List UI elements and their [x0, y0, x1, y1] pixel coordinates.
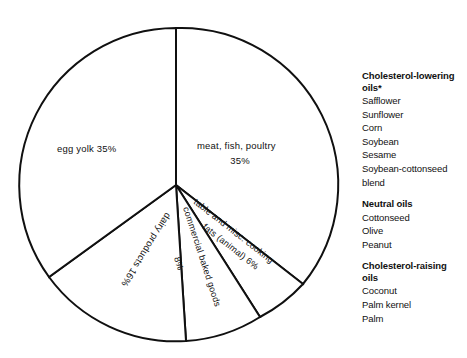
legend-group-neutral-oils: Neutral oils Cottonseed Olive Peanut [362, 198, 467, 251]
legend-item-cottonseed: Cottonseed [362, 211, 467, 225]
legend-item-safflower: Safflower [362, 94, 467, 108]
legend-item-coconut: Coconut [362, 284, 467, 298]
legend-item-corn: Corn [362, 121, 467, 135]
legend-item-sunflower: Sunflower [362, 108, 467, 122]
pie-label-meat-fish-poultry-line1: meat, fish, poultry [197, 140, 276, 151]
legend-item-peanut: Peanut [362, 238, 467, 252]
legend-item-olive: Olive [362, 224, 467, 238]
legend-item-palm-kernel: Palm kernel [362, 298, 467, 312]
legend: Cholesterol-lowering oils* Safflower Sun… [362, 70, 467, 325]
legend-group-cholesterol-raising-oils: Cholesterol-raising oils Coconut Palm ke… [362, 260, 467, 325]
legend-heading-neutral-oils: Neutral oils [362, 198, 467, 210]
legend-item-soybean: Soybean [362, 135, 467, 149]
legend-item-soybean-cottonseed-blend: Soybean-cottonseed blend [362, 162, 467, 189]
legend-item-palm: Palm [362, 312, 467, 326]
pie-slices [19, 28, 338, 341]
pie-label-egg-yolk: egg yolk 35% [57, 143, 117, 154]
legend-heading-cholesterol-raising-oils: Cholesterol-raising oils [362, 260, 467, 283]
legend-heading-cholesterol-lowering-oils: Cholesterol-lowering oils* [362, 70, 467, 93]
legend-group-cholesterol-lowering-oils: Cholesterol-lowering oils* Safflower Sun… [362, 70, 467, 189]
pie-label-meat-fish-poultry-line2: 35% [230, 155, 250, 166]
legend-item-sesame: Sesame [362, 148, 467, 162]
pie-chart-figure: egg yolk 35% meat, fish, poultry 35% dai… [0, 0, 467, 358]
